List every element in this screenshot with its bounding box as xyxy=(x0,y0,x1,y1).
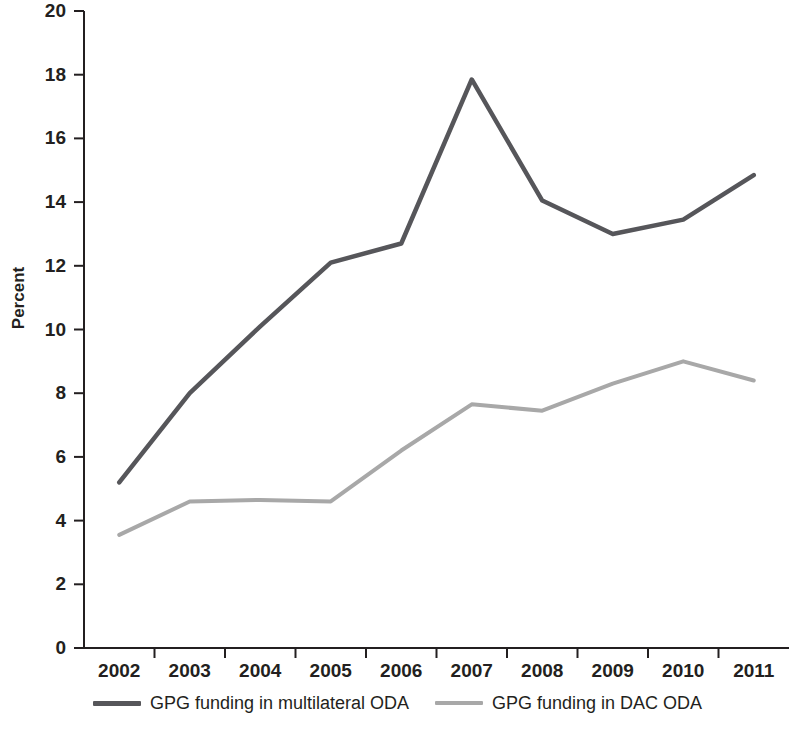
legend-swatch-icon xyxy=(435,701,483,705)
legend-entry: GPG funding in multilateral ODA xyxy=(93,693,409,713)
legend-label: GPG funding in DAC ODA xyxy=(492,693,702,713)
series-line-1 xyxy=(119,79,754,482)
legend-swatch-icon xyxy=(93,701,141,706)
plot-area xyxy=(0,0,795,730)
series-line-2 xyxy=(119,361,754,535)
line-chart: Percent 02468101214161820 20022003200420… xyxy=(0,0,795,730)
chart-legend: GPG funding in multilateral ODAGPG fundi… xyxy=(0,693,795,713)
legend-label: GPG funding in multilateral ODA xyxy=(150,693,409,713)
legend-entry: GPG funding in DAC ODA xyxy=(435,693,702,713)
